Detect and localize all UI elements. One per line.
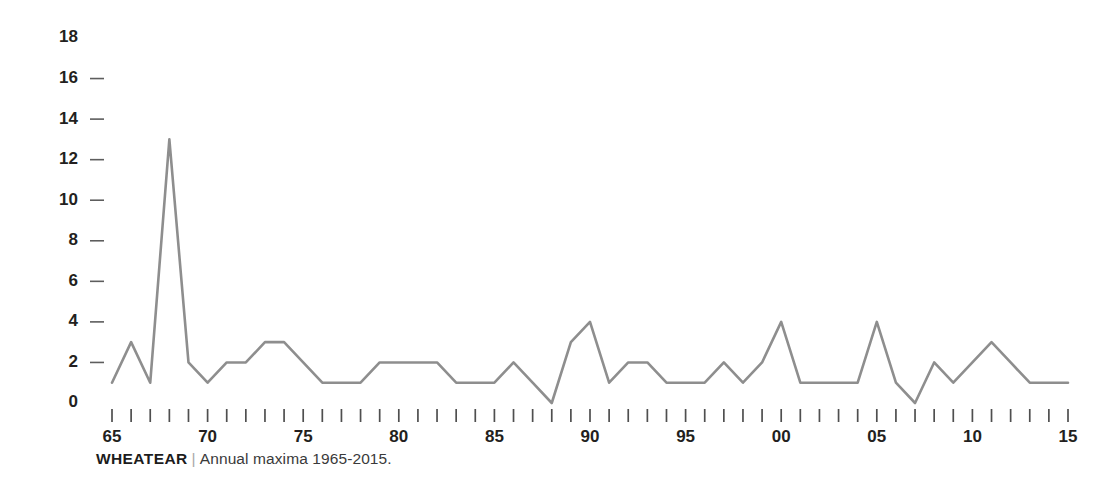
x-axis-tick-label: 90 — [581, 427, 600, 446]
data-series-line — [112, 139, 1068, 403]
y-axis-tick-label: 12 — [59, 149, 78, 168]
chart-page: 024681012141618 6570758085909500051015 W… — [0, 0, 1110, 488]
x-axis-tick-label: 80 — [389, 427, 408, 446]
x-axis-labels: 6570758085909500051015 — [103, 427, 1078, 446]
y-axis-tick-label: 6 — [69, 271, 78, 290]
y-axis-tick-label: 8 — [69, 230, 78, 249]
y-axis-tick-label: 0 — [69, 392, 78, 411]
x-axis-tick-label: 10 — [963, 427, 982, 446]
x-axis-tick-label: 95 — [676, 427, 695, 446]
y-axis-tick-label: 14 — [59, 109, 78, 128]
x-axis-ticks — [112, 409, 1068, 422]
caption-description: Annual maxima 1965-2015. — [200, 450, 392, 467]
y-axis-tick-label: 16 — [59, 68, 78, 87]
x-axis-tick-label: 15 — [1059, 427, 1078, 446]
y-axis-tick-label: 4 — [69, 311, 79, 330]
y-axis: 024681012141618 — [59, 27, 104, 411]
x-axis-tick-label: 85 — [485, 427, 504, 446]
chart-svg: 024681012141618 6570758085909500051015 — [0, 0, 1110, 488]
chart-caption: WHEATEAR|Annual maxima 1965-2015. — [96, 450, 392, 468]
y-axis-tick-label: 10 — [59, 190, 78, 209]
annual-maxima-line — [112, 139, 1068, 403]
x-axis-tick-label: 00 — [772, 427, 791, 446]
x-axis-tick-label: 65 — [103, 427, 122, 446]
y-axis-tick-label: 18 — [59, 27, 78, 46]
x-axis-tick-label: 70 — [198, 427, 217, 446]
wheatear-annual-maxima-chart: 024681012141618 6570758085909500051015 — [0, 0, 1110, 488]
caption-title: WHEATEAR — [96, 450, 188, 467]
caption-separator: | — [188, 450, 200, 467]
x-axis-tick-label: 75 — [294, 427, 313, 446]
x-axis-tick-label: 05 — [867, 427, 886, 446]
y-axis-tick-label: 2 — [69, 352, 78, 371]
